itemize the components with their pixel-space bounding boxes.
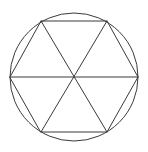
geometry-figure: Circle with inscribed regular hexagon an…: [0, 0, 148, 152]
